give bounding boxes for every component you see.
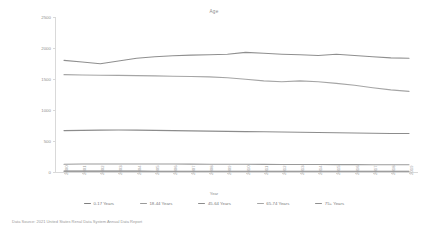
x-axis-tick-label: 2010 (246, 165, 251, 175)
x-axis-tick-label: 2009 (227, 165, 232, 175)
chart-title: Age (0, 9, 428, 14)
x-axis-tick-label: 2018 (391, 165, 396, 175)
x-axis-tick-label: 2016 (355, 165, 360, 175)
y-axis-tick-label: 2500 (21, 15, 51, 20)
series-line (64, 52, 409, 63)
legend-swatch-icon (198, 203, 205, 204)
x-axis-tick-label: 2013 (300, 165, 305, 175)
legend-item[interactable]: 0-17 Years (84, 201, 114, 206)
x-axis-tick-label: 2004 (137, 165, 142, 175)
legend-item[interactable]: 18-44 Years (140, 201, 172, 206)
x-axis-tick-label: 2000 (64, 165, 69, 175)
x-axis-tick-label: 2001 (82, 165, 87, 175)
data-source-note: Data Source: 2021 United States Renal Da… (12, 219, 142, 224)
y-axis-tick-label: 2000 (21, 46, 51, 51)
x-axis-tick-label: 2002 (100, 165, 105, 175)
legend-label: 75+ Years (325, 201, 344, 206)
legend-swatch-icon (140, 203, 147, 204)
series-line (64, 75, 409, 92)
plot-area (55, 17, 418, 172)
x-axis-tick-label: 2011 (264, 166, 269, 175)
legend-swatch-icon (315, 203, 322, 204)
legend-item[interactable]: 75+ Years (315, 201, 344, 206)
x-axis-tick-label: 2014 (318, 165, 323, 175)
y-axis-tick-mark (53, 172, 56, 173)
legend-swatch-icon (257, 203, 264, 204)
series-lines (55, 17, 418, 172)
x-axis-line (55, 172, 418, 173)
x-axis-tick-label: 2019 (409, 165, 414, 175)
y-axis-tick-label: 1500 (21, 77, 51, 82)
legend-label: 0-17 Years (93, 201, 114, 206)
legend-label: 45-64 Years (208, 201, 231, 206)
x-axis-tick-label: 2005 (155, 165, 160, 175)
x-axis-tick-label: 2007 (191, 165, 196, 175)
x-axis-tick-label: 2017 (373, 165, 378, 175)
x-axis-tick-label: 2006 (173, 165, 178, 175)
x-axis-title: Year (0, 191, 428, 196)
y-axis-tick-label: 0 (21, 170, 51, 175)
x-axis-tick-label: 2012 (282, 165, 287, 175)
legend-item[interactable]: 45-64 Years (198, 201, 230, 206)
legend-swatch-icon (84, 203, 91, 204)
legend-label: 18-44 Years (149, 201, 172, 206)
y-axis-tick-label: 500 (21, 139, 51, 144)
legend-item[interactable]: 65-74 Years (257, 201, 289, 206)
y-axis-tick-label: 1000 (21, 108, 51, 113)
x-axis-tick-label: 2008 (209, 165, 214, 175)
chart-legend: 0-17 Years18-44 Years45-64 Years65-74 Ye… (0, 201, 428, 206)
x-axis-tick-label: 2015 (336, 165, 341, 175)
chart-page: Age 05001000150020002500 Cases per milli… (0, 0, 428, 234)
series-line (64, 130, 409, 134)
x-axis-tick-label: 2003 (118, 165, 123, 175)
legend-label: 65-74 Years (266, 201, 289, 206)
